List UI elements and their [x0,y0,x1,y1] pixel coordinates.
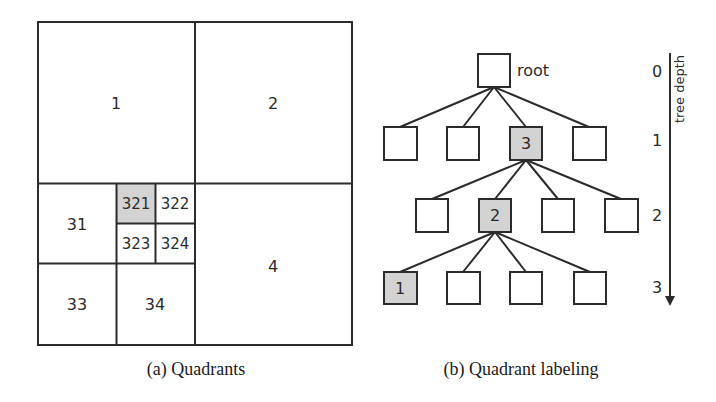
tree-node-root [478,54,510,87]
quadrant-label-323: 323 [122,235,151,253]
edges-level-1-2 [432,160,621,199]
tree-node-l2-1 [416,199,448,232]
edges-level-2-3 [400,232,590,272]
root-label: root [517,61,549,80]
tree-node-label-3: 3 [521,134,531,153]
caption-b: (b) Quadrant labeling [444,359,599,380]
quadrant-label-4: 4 [268,257,278,276]
depth-axis-title: tree depth [672,55,687,123]
tree-node-l1-1 [384,127,417,160]
quadrant-label-322: 322 [161,195,190,213]
arrow-down-icon [665,296,675,306]
tree-node-l2-3 [542,199,574,232]
quadtree-diagram: root 3 2 1 [384,54,638,304]
tree-node-l1-4 [573,127,606,160]
quadrant-label-324: 324 [161,235,190,253]
caption-a: (a) Quadrants [147,359,245,380]
tree-node-label-1: 1 [395,279,405,298]
tree-node-l3-3 [510,272,542,304]
quadrant-label-34: 34 [145,295,165,314]
depth-tick-2: 2 [652,206,662,225]
quadrant-label-321: 321 [122,195,151,213]
quadtree-figure: 1 2 4 31 33 34 321 322 323 324 (a) Quadr… [0,0,716,402]
tree-node-l2-4 [605,199,638,232]
depth-tick-0: 0 [652,62,662,81]
quadrant-label-31: 31 [67,215,87,234]
edges-level-0-1 [400,87,589,127]
tree-depth-axis: 0 1 2 3 tree depth [652,53,687,306]
quadrant-label-2: 2 [268,94,278,113]
depth-tick-1: 1 [652,131,662,150]
quadrant-label-33: 33 [67,295,87,314]
tree-node-label-2: 2 [490,206,500,225]
quadrants-diagram: 1 2 4 31 33 34 321 322 323 324 [38,22,352,345]
depth-tick-3: 3 [652,278,662,297]
tree-node-l3-4 [574,272,606,304]
tree-node-l1-2 [447,127,479,160]
quadrant-label-1: 1 [111,94,121,113]
tree-node-l3-2 [447,272,480,304]
